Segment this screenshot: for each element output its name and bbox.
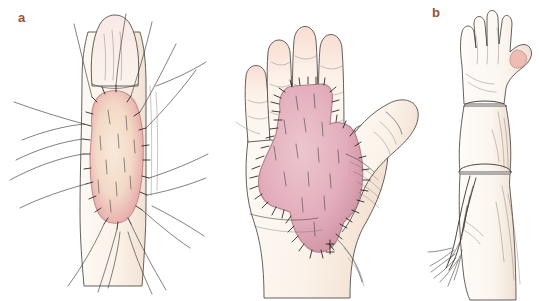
panel-a-finger-graft: a [0, 0, 210, 301]
panel-c-elevated-arm: c [440, 0, 539, 301]
panel-b-drawing [210, 0, 440, 301]
upper-arm [459, 174, 520, 300]
surgical-illustration-figure: a [0, 0, 539, 301]
raised-hand [461, 11, 532, 105]
forearm [459, 106, 511, 172]
panel-a-drawing [0, 0, 210, 301]
panel-b-palm-graft: b [210, 0, 440, 301]
panel-c-drawing [440, 0, 539, 301]
fingertip [91, 15, 138, 89]
